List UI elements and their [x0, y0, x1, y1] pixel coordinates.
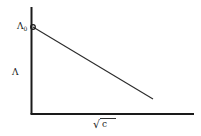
x-axis-label: √ c [93, 118, 116, 131]
y-axis-label: Λ [11, 67, 19, 77]
kohlrausch-diagram: Λ0 Λ √ c [0, 0, 201, 136]
intercept-label: Λ0 [16, 21, 28, 32]
radical-sign: √ [93, 118, 101, 131]
data-line [33, 27, 153, 99]
x-axis-variable: c [102, 119, 107, 129]
